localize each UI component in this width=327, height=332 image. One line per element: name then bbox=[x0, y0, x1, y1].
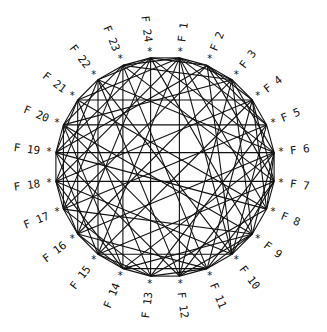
node-label: F 1 bbox=[175, 22, 190, 43]
node-label: F 14 bbox=[101, 281, 123, 311]
graph-edge bbox=[63, 125, 207, 269]
node-label: F 13 bbox=[139, 291, 155, 319]
node-label: F 8 bbox=[279, 210, 302, 230]
graph-edge bbox=[179, 269, 207, 277]
node-marker-icon: * bbox=[178, 278, 183, 289]
node-label: F 2 bbox=[208, 30, 228, 53]
node-label: F 19 bbox=[13, 141, 41, 157]
node-marker-icon: * bbox=[70, 233, 75, 244]
graph-edge bbox=[56, 153, 179, 277]
node-marker-icon: * bbox=[47, 177, 52, 188]
graph-edge bbox=[98, 181, 274, 254]
graph-edge bbox=[63, 209, 77, 234]
node-marker-icon: * bbox=[255, 90, 260, 101]
node-label: F 4 bbox=[261, 73, 285, 96]
node-marker-icon: * bbox=[279, 177, 284, 188]
edge-layer bbox=[56, 58, 274, 276]
node-marker-icon: * bbox=[91, 69, 96, 80]
node-marker-icon: * bbox=[279, 146, 284, 157]
node-marker-icon: * bbox=[178, 46, 183, 57]
graph-edge bbox=[78, 58, 151, 234]
graph-edge bbox=[98, 254, 123, 268]
node-label: F 18 bbox=[13, 177, 41, 193]
node-marker-icon: * bbox=[147, 278, 152, 289]
node-marker-icon: * bbox=[234, 254, 239, 265]
graph-edge bbox=[56, 181, 123, 268]
node-marker-icon: * bbox=[147, 46, 152, 57]
graph-edge bbox=[78, 80, 98, 100]
node-marker-icon: * bbox=[54, 206, 59, 217]
graph-edge bbox=[267, 125, 275, 153]
node-marker-icon: * bbox=[207, 53, 212, 64]
node-label: F 23 bbox=[100, 24, 122, 53]
node-marker-icon: * bbox=[207, 270, 212, 281]
node-label: F 21 bbox=[40, 69, 69, 95]
node-label: F 16 bbox=[40, 239, 69, 265]
network-diagram: ************************ F 1F 2F 3F 4F 5… bbox=[0, 0, 327, 332]
graph-edge bbox=[123, 65, 274, 181]
node-label: F 3 bbox=[237, 47, 259, 71]
node-label: F 11 bbox=[207, 281, 229, 310]
node-label: F 22 bbox=[67, 42, 93, 71]
node-label: F 10 bbox=[236, 263, 262, 292]
graph-edge bbox=[252, 100, 266, 209]
node-label: F 12 bbox=[175, 291, 191, 319]
node-label: F 15 bbox=[67, 263, 93, 292]
node-label: F 17 bbox=[22, 210, 51, 232]
node-marker-icon: * bbox=[118, 270, 123, 281]
node-marker-icon: * bbox=[271, 206, 276, 217]
node-marker-icon: * bbox=[70, 90, 75, 101]
node-label: F 5 bbox=[279, 106, 302, 126]
node-marker-icon: * bbox=[47, 146, 52, 157]
node-label: F 7 bbox=[289, 177, 310, 192]
node-label: F 9 bbox=[261, 239, 285, 261]
node-marker-icon: * bbox=[54, 117, 59, 128]
graph-edge bbox=[63, 125, 266, 209]
node-marker-icon: * bbox=[271, 117, 276, 128]
node-label: F 24 bbox=[138, 15, 154, 43]
node-label: F 20 bbox=[21, 103, 50, 125]
graph-edge bbox=[151, 125, 267, 276]
node-marker-icon: * bbox=[91, 254, 96, 265]
node-marker-icon: * bbox=[234, 69, 239, 80]
node-marker-icon: * bbox=[255, 233, 260, 244]
node-marker-icon: * bbox=[118, 53, 123, 64]
node-label: F 6 bbox=[289, 142, 310, 157]
